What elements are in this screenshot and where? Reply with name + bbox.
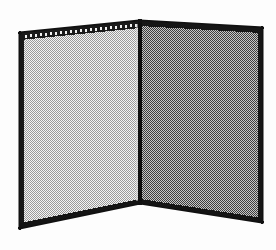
- corner-bottom-right: [260, 220, 264, 224]
- center-hinge[interactable]: [137, 20, 140, 204]
- right-panel[interactable]: [140, 21, 262, 222]
- left-panel[interactable]: [20, 21, 140, 228]
- corner-bottom-left: [18, 226, 22, 230]
- right-panel-fill: [140, 21, 262, 222]
- folding-screen-illustration: Hinged two-panel screen shown in perspec…: [0, 0, 276, 250]
- corner-top-left: [18, 31, 22, 35]
- figure-canvas: Hinged two-panel screen shown in perspec…: [0, 0, 276, 250]
- left-panel-fill: [20, 21, 140, 228]
- corner-top-hinge: [138, 19, 142, 23]
- corner-bottom-hinge: [138, 201, 142, 205]
- right-panel-outer-stile: [258, 28, 262, 222]
- left-panel-outer-stile: [20, 33, 24, 228]
- corner-top-right: [260, 26, 264, 30]
